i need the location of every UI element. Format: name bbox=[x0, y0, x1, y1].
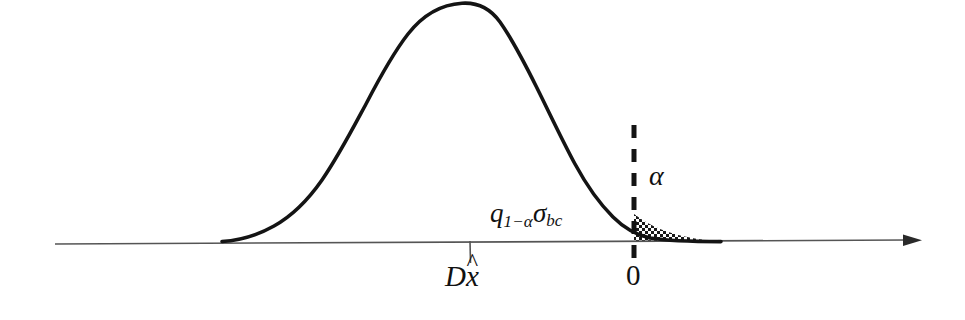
mean-axis-label: D^x bbox=[445, 262, 479, 291]
hat-accent-icon: ^ bbox=[466, 251, 478, 276]
distribution-plot-canvas bbox=[0, 0, 965, 320]
horizontal-axis bbox=[55, 235, 922, 247]
statistical-distribution-figure: q1−ασbc α 0 D^x bbox=[0, 0, 965, 320]
q-symbol: q bbox=[490, 198, 504, 228]
sigma-subscript: bc bbox=[546, 211, 562, 230]
critical-value-label: q1−ασbc bbox=[490, 200, 562, 230]
d-symbol: D bbox=[445, 260, 466, 292]
alpha-tail-label: α bbox=[649, 162, 664, 190]
sigma-symbol: σ bbox=[533, 198, 546, 228]
axis-arrowhead-icon bbox=[903, 235, 922, 247]
q-subscript: 1−α bbox=[504, 212, 534, 231]
normal-distribution-curve bbox=[222, 3, 721, 242]
origin-axis-label: 0 bbox=[626, 261, 641, 290]
x-hat-symbol: ^x bbox=[466, 262, 479, 291]
